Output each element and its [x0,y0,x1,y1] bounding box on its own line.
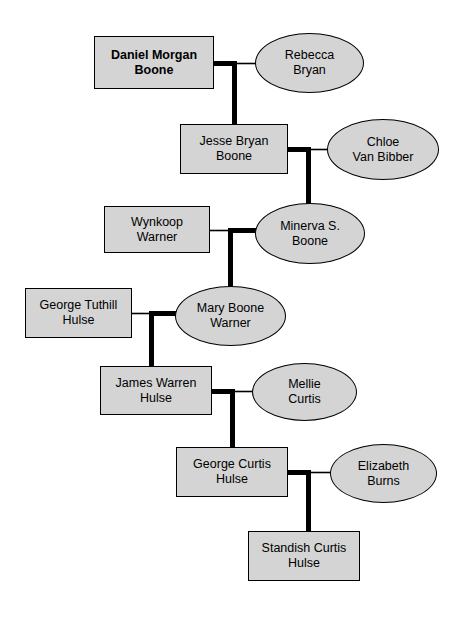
person-node-gen2[interactable]: Jesse Bryan Boone [180,124,288,174]
person-node-gen7[interactable]: Standish Curtis Hulse [248,531,360,581]
person-name-gen2: Jesse Bryan Boone [197,134,272,164]
spouse-node-gen1[interactable]: Rebecca Bryan [255,33,364,93]
person-node-gen6[interactable]: George Curtis Hulse [176,447,288,497]
person-node-gen4[interactable]: Mary Boone Warner [175,286,286,346]
spouse-node-gen2[interactable]: Chloe Van Bibber [327,119,439,180]
spouse-node-gen4[interactable]: George Tuthill Hulse [25,288,132,338]
spouse-name-gen2: Chloe Van Bibber [350,135,417,165]
person-node-gen5[interactable]: James Warren Hulse [100,366,212,415]
person-name-gen5: James Warren Hulse [113,376,200,406]
person-node-gen1[interactable]: Daniel Morgan Boone [94,36,214,89]
person-name-gen7: Standish Curtis Hulse [259,541,350,571]
spouse-node-gen3[interactable]: Wynkoop Warner [104,206,210,253]
person-name-gen4: Mary Boone Warner [194,301,267,331]
person-name-gen1: Daniel Morgan Boone [108,48,200,78]
spouse-name-gen3: Wynkoop Warner [128,215,186,245]
spouse-node-gen6[interactable]: Elizabeth Burns [330,444,437,503]
family-tree-chart: Daniel Morgan Boone Rebecca Bryan Jesse … [0,0,468,619]
spouse-name-gen4: George Tuthill Hulse [37,298,121,328]
spouse-name-gen5: Mellie Curtis [285,377,324,407]
spouse-name-gen1: Rebecca Bryan [282,48,337,78]
spouse-node-gen5[interactable]: Mellie Curtis [252,363,357,421]
spouse-name-gen6: Elizabeth Burns [355,459,412,489]
person-name-gen6: George Curtis Hulse [190,457,274,487]
person-name-gen3: Minerva S. Boone [277,219,343,249]
person-node-gen3[interactable]: Minerva S. Boone [255,203,365,264]
